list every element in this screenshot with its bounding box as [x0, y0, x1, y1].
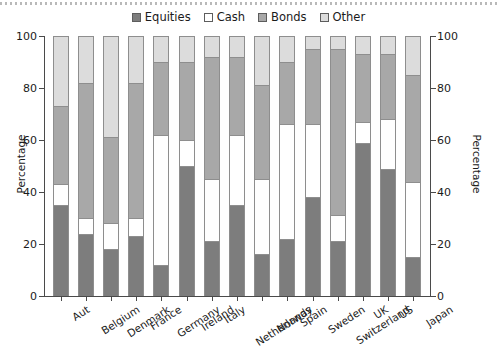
y-tick-label-left-100: 100 — [11, 31, 37, 42]
bar-segment-japan-other — [405, 36, 421, 75]
x-tick-mark-denmark — [111, 297, 112, 301]
x-tick-mark-belgium — [86, 297, 87, 301]
y-tick-mark-right-40 — [431, 192, 436, 193]
bar-segment-spain-equities — [279, 239, 295, 296]
y-tick-mark-right-100 — [431, 36, 436, 37]
legend-item-cash: Cash — [204, 12, 245, 24]
bar-segment-denmark-other — [103, 36, 119, 137]
bar-segment-us-bonds — [380, 54, 396, 119]
bar-segment-norway-cash — [254, 179, 270, 254]
x-tick-mark-france — [136, 297, 137, 301]
bar-segment-belgium-other — [78, 36, 94, 83]
chart-container: Equities Cash Bonds Other Percentage Per… — [0, 0, 497, 351]
bar-segment-italy-other — [204, 36, 220, 57]
bar-segment-denmark-bonds — [103, 137, 119, 223]
bar-segment-norway-bonds — [254, 85, 270, 179]
y-tick-mark-left-60 — [39, 140, 44, 141]
bar-segment-us-equities — [380, 169, 396, 296]
x-tick-mark-ireland — [187, 297, 188, 301]
legend-swatch-other — [320, 13, 329, 22]
bar-segment-us-other — [380, 36, 396, 54]
bar-segment-netherlands-bonds — [229, 57, 245, 135]
bar-segment-spain-other — [279, 36, 295, 62]
bar-segment-germany-cash — [153, 135, 169, 265]
bar-segment-aut-bonds — [53, 106, 69, 184]
bar-aut — [53, 36, 69, 296]
bar-segment-italy-equities — [204, 241, 220, 296]
bar-segment-ireland-bonds — [179, 62, 195, 140]
bar-segment-france-cash — [128, 218, 144, 236]
bar-sweden — [305, 36, 321, 296]
bar-segment-uk-other — [355, 36, 371, 54]
y-tick-mark-left-40 — [39, 192, 44, 193]
bar-segment-italy-cash — [204, 179, 220, 241]
x-tick-mark-sweden — [313, 297, 314, 301]
bar-segment-france-other — [128, 36, 144, 83]
x-tick-mark-aut — [61, 297, 62, 301]
top-dotted-border — [0, 2, 497, 5]
y-tick-mark-left-100 — [39, 36, 44, 37]
bar-germany — [153, 36, 169, 296]
bar-segment-ireland-equities — [179, 166, 195, 296]
bar-segment-ireland-cash — [179, 140, 195, 166]
bar-uk — [355, 36, 371, 296]
bar-netherlands — [229, 36, 245, 296]
bar-segment-sweden-equities — [305, 197, 321, 296]
x-tick-mark-uk — [363, 297, 364, 301]
bar-segment-japan-cash — [405, 182, 421, 257]
bar-segment-belgium-bonds — [78, 83, 94, 218]
bar-segment-switzerland-cash — [330, 215, 346, 241]
bar-segment-denmark-equities — [103, 249, 119, 296]
x-tick-mark-switzerland — [338, 297, 339, 301]
bar-segment-belgium-equities — [78, 234, 94, 296]
y-tick-mark-right-0 — [431, 296, 436, 297]
y-tick-label-right-20: 20 — [437, 239, 463, 250]
bar-italy — [204, 36, 220, 296]
y-tick-label-left-40: 40 — [11, 187, 37, 198]
y-axis-line-right — [430, 36, 431, 297]
bar-segment-uk-cash — [355, 122, 371, 143]
bar-norway — [254, 36, 270, 296]
bar-segment-sweden-other — [305, 36, 321, 49]
legend-label-bonds: Bonds — [271, 12, 307, 24]
y-tick-label-right-0: 0 — [437, 291, 463, 302]
bar-segment-norway-equities — [254, 254, 270, 296]
bar-segment-france-equities — [128, 236, 144, 296]
bar-switzerland — [330, 36, 346, 296]
legend-label-cash: Cash — [217, 12, 245, 24]
bar-japan — [405, 36, 421, 296]
bar-belgium — [78, 36, 94, 296]
plot-area — [48, 36, 426, 296]
bar-segment-germany-bonds — [153, 62, 169, 135]
bar-us — [380, 36, 396, 296]
y-tick-label-right-60: 60 — [437, 135, 463, 146]
x-tick-mark-norway — [262, 297, 263, 301]
bar-segment-uk-bonds — [355, 54, 371, 122]
x-tick-mark-us — [388, 297, 389, 301]
bar-segment-japan-equities — [405, 257, 421, 296]
bar-segment-switzerland-other — [330, 36, 346, 49]
bar-segment-netherlands-equities — [229, 205, 245, 296]
y-tick-label-right-40: 40 — [437, 187, 463, 198]
legend-item-bonds: Bonds — [258, 12, 307, 24]
bar-segment-aut-other — [53, 36, 69, 106]
bar-ireland — [179, 36, 195, 296]
bar-segment-spain-cash — [279, 124, 295, 238]
y-tick-mark-right-20 — [431, 244, 436, 245]
legend-label-equities: Equities — [145, 12, 191, 24]
bar-segment-norway-other — [254, 36, 270, 85]
bar-segment-spain-bonds — [279, 62, 295, 124]
bar-segment-sweden-cash — [305, 124, 321, 197]
x-tick-mark-spain — [287, 297, 288, 301]
bar-spain — [279, 36, 295, 296]
y-tick-mark-right-80 — [431, 88, 436, 89]
legend-swatch-bonds — [258, 13, 267, 22]
y-tick-mark-left-80 — [39, 88, 44, 89]
bar-segment-netherlands-other — [229, 36, 245, 57]
bar-segment-netherlands-cash — [229, 135, 245, 205]
bar-segment-japan-bonds — [405, 75, 421, 182]
y-tick-label-left-60: 60 — [11, 135, 37, 146]
x-tick-mark-germany — [161, 297, 162, 301]
bar-segment-us-cash — [380, 119, 396, 168]
legend-swatch-equities — [132, 13, 141, 22]
